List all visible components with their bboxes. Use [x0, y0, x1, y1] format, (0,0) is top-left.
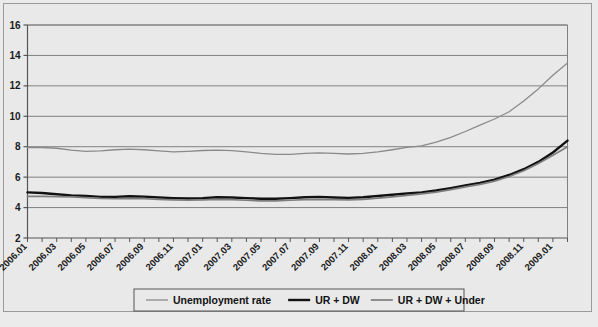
y-tick-label: 14	[9, 50, 21, 61]
x-tick-label: 2007.05	[230, 240, 263, 273]
x-tick-label: 2007.09	[289, 241, 321, 273]
x-tick-label: 2006.11	[143, 240, 175, 272]
gridlines-group	[28, 25, 568, 208]
x-tick-label: 2008.01	[347, 240, 380, 273]
legend-label: UR + DW	[315, 294, 360, 306]
y-tick-label: 12	[9, 80, 21, 91]
y-axis-tick-labels: 246810121416	[9, 20, 21, 244]
legend-label: Unemployment rate	[173, 294, 271, 306]
chart-legend: Unemployment rateUR + DWUR + DW + Under	[134, 289, 485, 311]
x-tick-label: 2006.01	[0, 240, 29, 273]
y-tick-label: 6	[15, 172, 21, 183]
x-tick-label: 2007.07	[260, 241, 292, 273]
x-tick-label: 2006.07	[84, 241, 116, 273]
x-tick-label: 2008.11	[493, 240, 525, 272]
x-tick-label: 2008.05	[406, 240, 439, 273]
x-tick-label: 2008.09	[464, 241, 496, 273]
data-series-group	[28, 63, 568, 201]
series-line	[28, 147, 568, 201]
axes-group	[28, 25, 568, 238]
y-tick-label: 4	[15, 202, 21, 213]
x-tick-label: 2006.09	[114, 241, 146, 273]
x-tick-label: 2009.01	[522, 240, 555, 273]
y-tick-label: 10	[9, 111, 21, 122]
x-tick-label: 2006.03	[26, 241, 58, 273]
series-line	[28, 141, 568, 199]
series-line	[28, 63, 568, 154]
x-tick-label: 2006.05	[55, 240, 88, 273]
x-tick-label: 2008.03	[376, 241, 408, 273]
figure-canvas: 246810121416 2006.012006.032006.052006.0…	[0, 0, 598, 327]
x-tick-label: 2007.03	[201, 241, 233, 273]
line-chart: 246810121416 2006.012006.032006.052006.0…	[0, 0, 598, 327]
y-tick-label: 16	[9, 20, 21, 31]
y-tick-label: 8	[15, 141, 21, 152]
legend-label: UR + DW + Under	[398, 294, 485, 306]
x-tick-label: 2007.01	[172, 240, 205, 273]
x-tick-label: 2008.07	[435, 241, 467, 273]
x-axis-tick-labels: 2006.012006.032006.052006.072006.092006.…	[0, 240, 555, 273]
x-tick-label: 2007.11	[318, 240, 350, 272]
